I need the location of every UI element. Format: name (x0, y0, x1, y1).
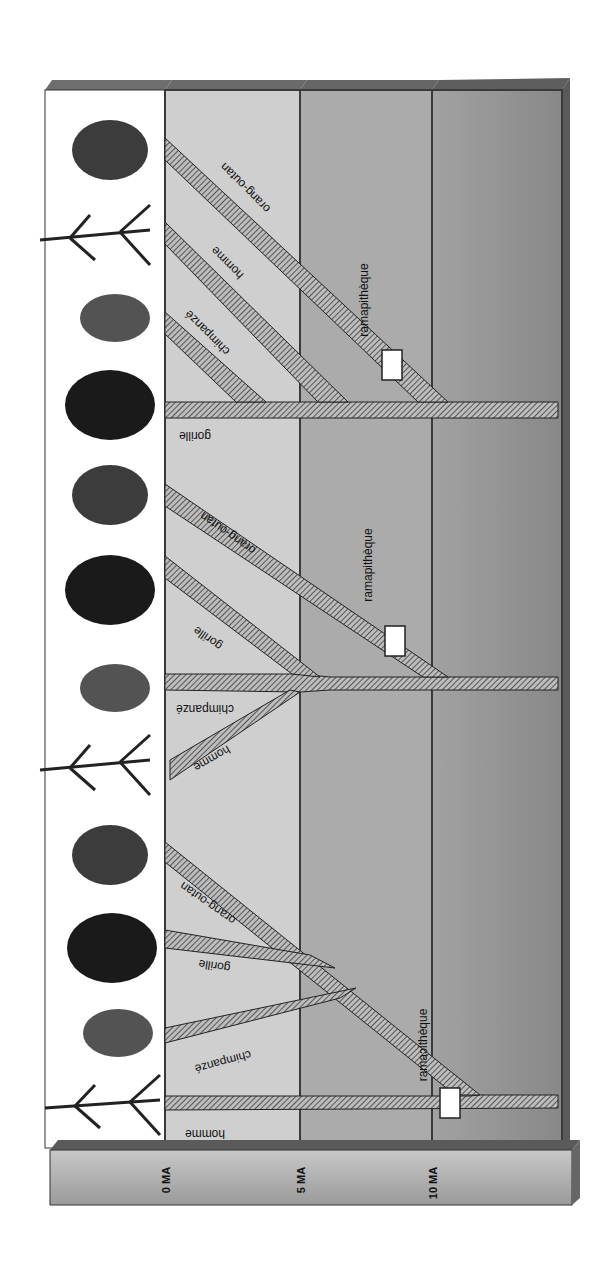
gorilla-figure (65, 555, 155, 625)
gorilla-figure (65, 370, 155, 440)
label-ramapitheque: ramapithèque (357, 263, 371, 337)
stem-chimpanze (165, 674, 558, 692)
gorilla-figure (67, 913, 157, 983)
label-ramapitheque: ramaɔithèque (416, 1008, 430, 1081)
stem-gorille (165, 402, 558, 418)
orangutan-figure (72, 120, 148, 180)
fossil-box (382, 350, 402, 380)
fossil-box (385, 626, 405, 656)
chimpanzee-figure (80, 664, 150, 712)
band-10-plus-ma (432, 90, 562, 1148)
label-ramapitheque: ramapithèque (361, 528, 375, 602)
fossil-box (440, 1088, 460, 1118)
label-gorille: gorille (179, 429, 211, 443)
tick-0-ma: 0 MA (160, 1167, 172, 1193)
time-axis: 0 MA 5 MA 10 MA (50, 1140, 580, 1205)
tick-10-ma: 10 MA (427, 1167, 439, 1199)
chimpanzee-figure (80, 294, 150, 342)
stem-homme (165, 1095, 558, 1110)
label-chimpanze: chimpanzé (176, 702, 234, 716)
band-5-10-ma (300, 90, 432, 1148)
chimpanzee-figure (83, 1009, 153, 1057)
label-homme: homme (185, 1127, 225, 1141)
tick-5-ma: 5 MA (295, 1167, 307, 1193)
orangutan-figure (72, 825, 148, 885)
phylogeny-diagram: orang-outan homme chimpanzé gorille rama… (0, 0, 609, 1267)
orangutan-figure (72, 465, 148, 525)
